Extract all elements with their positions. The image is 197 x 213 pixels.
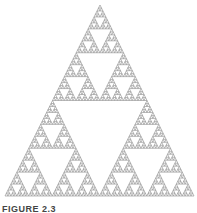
sub-triangle	[165, 145, 168, 148]
sub-triangle	[150, 193, 153, 196]
sub-triangle	[40, 175, 43, 178]
sub-triangle	[140, 89, 143, 92]
sub-triangle	[82, 98, 85, 101]
sub-triangle	[181, 172, 184, 175]
sub-triangle	[67, 169, 70, 172]
sub-triangle	[60, 95, 63, 98]
sub-triangle	[60, 142, 63, 145]
sub-triangle	[113, 83, 116, 86]
sub-triangle	[160, 190, 163, 193]
sub-triangle	[40, 193, 43, 196]
sub-triangle	[36, 190, 39, 193]
sub-triangle	[26, 169, 29, 172]
sub-triangle	[17, 169, 20, 172]
sub-triangle	[126, 193, 129, 196]
sub-triangle	[108, 193, 111, 196]
sub-triangle	[109, 26, 112, 29]
sub-triangle	[137, 95, 140, 98]
sub-triangle	[17, 175, 20, 178]
sub-triangle	[29, 151, 32, 154]
sub-triangle	[126, 68, 129, 71]
sub-triangle	[116, 65, 119, 68]
sub-triangle	[64, 175, 67, 178]
sub-triangle	[103, 20, 106, 23]
sub-triangle	[138, 86, 141, 89]
sub-triangle	[66, 178, 69, 181]
sub-triangle	[129, 86, 132, 89]
sub-triangle	[55, 121, 58, 124]
sub-triangle	[110, 29, 113, 32]
sub-triangle	[176, 163, 179, 166]
sub-triangle	[72, 142, 75, 145]
sub-triangle	[54, 118, 57, 121]
sub-triangle	[101, 11, 104, 14]
sub-triangle	[137, 142, 140, 145]
sub-triangle	[97, 26, 100, 29]
sub-triangle	[173, 169, 176, 172]
sub-triangle	[111, 193, 114, 196]
sub-triangle	[123, 56, 126, 59]
sub-triangle	[153, 193, 156, 196]
sub-triangle	[141, 121, 144, 124]
sub-triangle	[123, 193, 126, 196]
sub-triangle	[95, 95, 98, 98]
sub-triangle	[66, 130, 69, 133]
sub-triangle	[72, 59, 75, 62]
sub-triangle	[41, 127, 44, 130]
sub-triangle	[123, 62, 126, 65]
sub-triangle	[135, 133, 138, 136]
sub-triangle	[129, 92, 132, 95]
sub-triangle	[118, 50, 121, 53]
sub-triangle	[141, 187, 144, 190]
sub-triangle	[104, 17, 107, 20]
sub-triangle	[117, 92, 120, 95]
sub-triangle	[29, 193, 32, 196]
sub-triangle	[125, 71, 128, 74]
sub-triangle	[138, 98, 141, 101]
sub-triangle	[58, 121, 61, 124]
sub-triangle	[64, 98, 67, 101]
sub-triangle	[160, 178, 163, 181]
sub-triangle	[85, 38, 88, 41]
sub-triangle	[51, 101, 54, 104]
sub-triangle	[178, 190, 181, 193]
sub-triangle	[66, 142, 69, 145]
sub-triangle	[125, 142, 128, 145]
sub-triangle	[96, 23, 99, 26]
sub-triangle	[30, 142, 33, 145]
sub-triangle	[126, 157, 129, 160]
sub-triangle	[83, 190, 86, 193]
sub-triangle	[141, 193, 144, 196]
sub-triangle	[42, 190, 45, 193]
sub-triangle	[119, 59, 122, 62]
sub-triangle	[91, 86, 94, 89]
sub-triangle	[129, 181, 132, 184]
sub-triangle	[76, 98, 79, 101]
sub-triangle	[70, 157, 73, 160]
sub-triangle	[63, 77, 66, 80]
sub-triangle	[67, 98, 70, 101]
sub-triangle	[80, 184, 83, 187]
sub-triangle	[148, 142, 151, 145]
sub-triangle	[91, 187, 94, 190]
sub-triangle	[112, 80, 115, 83]
sub-triangle	[79, 74, 82, 77]
sub-triangle	[137, 83, 140, 86]
sub-triangle	[92, 184, 95, 187]
sub-triangle	[179, 181, 182, 184]
sub-triangle	[103, 50, 106, 53]
sub-triangle	[166, 154, 169, 157]
sub-triangle	[76, 74, 79, 77]
sub-triangle	[164, 187, 167, 190]
sub-triangle	[163, 136, 166, 139]
sub-triangle	[119, 154, 122, 157]
sub-triangle	[73, 62, 76, 65]
sub-triangle	[61, 181, 64, 184]
sub-triangle	[126, 139, 129, 142]
sub-triangle	[179, 175, 182, 178]
sub-triangle	[112, 98, 115, 101]
sub-triangle	[165, 139, 168, 142]
sub-triangle	[120, 98, 123, 101]
sub-triangle	[67, 145, 70, 148]
sub-triangle	[120, 193, 123, 196]
